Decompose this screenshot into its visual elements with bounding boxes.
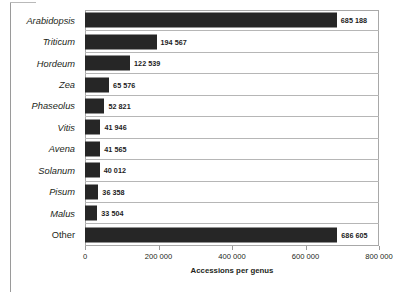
bar-row: 41 565 [85, 139, 379, 160]
bar[interactable] [85, 56, 130, 71]
x-axis-tick-label: 400 000 [218, 252, 245, 261]
bar[interactable] [85, 228, 337, 243]
bar[interactable] [85, 141, 100, 156]
x-axis-ticks [85, 246, 379, 251]
bar[interactable] [85, 34, 157, 49]
bar-rows: 685 188194 567122 53965 57652 82141 9464… [85, 10, 379, 246]
x-axis-tick-label: 600 000 [292, 252, 319, 261]
category-label: Triticum [0, 31, 80, 52]
figure-container: ArabidopsisTriticumHordeumZeaPhaseolusVi… [0, 0, 412, 294]
bar-value-label: 65 576 [113, 80, 135, 89]
category-label: Pisum [0, 182, 80, 203]
category-label: Vitis [0, 117, 80, 138]
category-label: Zea [0, 74, 80, 95]
category-label: Other [0, 224, 80, 245]
category-label: Arabidopsis [0, 10, 80, 31]
bar-value-label: 41 565 [104, 144, 126, 153]
category-label: Avena [0, 139, 80, 160]
x-axis-tick [159, 246, 160, 250]
x-axis-tick-label: 800 000 [365, 252, 392, 261]
bar-value-label: 41 946 [104, 123, 126, 132]
bar-value-label: 685 188 [341, 16, 367, 25]
bar-row: 685 188 [85, 10, 379, 31]
bar-row: 41 946 [85, 117, 379, 138]
bar[interactable] [85, 163, 100, 178]
bar-chart: ArabidopsisTriticumHordeumZeaPhaseolusVi… [0, 0, 412, 294]
bar-value-label: 52 821 [108, 101, 130, 110]
x-axis-tick [85, 246, 86, 250]
category-label: Phaseolus [0, 96, 80, 117]
y-axis-category-labels: ArabidopsisTriticumHordeumZeaPhaseolusVi… [0, 10, 80, 246]
bar-value-label: 122 539 [134, 59, 160, 68]
x-axis-tick [306, 246, 307, 250]
x-axis-tick-labels: 0200 000400 000600 000800 000 [0, 252, 412, 264]
x-axis-tick-label: 200 000 [145, 252, 172, 261]
category-label: Malus [0, 203, 80, 224]
bar[interactable] [85, 77, 109, 92]
category-label: Hordeum [0, 53, 80, 74]
bar-value-label: 33 504 [101, 209, 123, 218]
bar-value-label: 194 567 [161, 37, 187, 46]
bar-value-label: 36 358 [102, 187, 124, 196]
x-axis-tick-label: 0 [83, 252, 87, 261]
bar-value-label: 686 605 [341, 231, 367, 240]
bar[interactable] [85, 13, 337, 28]
bar-row: 33 504 [85, 203, 379, 224]
bar[interactable] [85, 206, 97, 221]
x-axis-title: Accessions per genus [85, 266, 379, 275]
x-axis-tick [232, 246, 233, 250]
bar-row: 122 539 [85, 53, 379, 74]
bar[interactable] [85, 98, 104, 113]
bar-value-label: 40 012 [104, 166, 126, 175]
bar-row: 686 605 [85, 224, 379, 245]
bar-row: 40 012 [85, 160, 379, 181]
bar[interactable] [85, 120, 100, 135]
category-label: Solanum [0, 160, 80, 181]
bar[interactable] [85, 184, 98, 199]
bar-row: 65 576 [85, 74, 379, 95]
x-axis-tick [379, 246, 380, 250]
bar-row: 36 358 [85, 182, 379, 203]
bar-row: 194 567 [85, 31, 379, 52]
bar-row: 52 821 [85, 96, 379, 117]
